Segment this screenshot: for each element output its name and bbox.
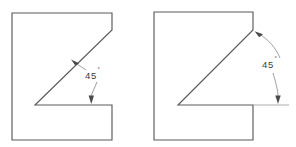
- left-angle-degree-symbol: °: [98, 66, 101, 72]
- right-arc-leader-lower: [273, 73, 278, 96]
- left-leader-line-to-horizontal: [91, 82, 97, 96]
- left-block-outline: [12, 13, 112, 140]
- left-arrowhead-horizontal-icon: [89, 96, 94, 105]
- right-arrowhead-diagonal-icon: [255, 31, 263, 37]
- right-view: 45 °: [154, 12, 289, 140]
- left-angle-value: 45: [85, 70, 97, 81]
- right-block-outline: [154, 12, 253, 140]
- left-view: 45 °: [12, 13, 112, 140]
- right-angle-degree-symbol: °: [275, 55, 278, 61]
- engineering-drawing-canvas: 45 ° 45 °: [0, 0, 296, 147]
- right-angle-value: 45: [262, 59, 274, 70]
- right-arrowhead-horizontal-icon: [275, 96, 280, 105]
